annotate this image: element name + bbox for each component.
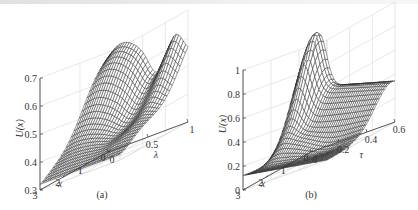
surface-plot-a-canvas: 0.30.40.50.60.7012300.51U(x)xλ(a) — [0, 0, 209, 210]
y-tick-label: 0.4 — [365, 134, 378, 145]
z-tick-label: 0.2 — [228, 161, 241, 172]
z-tick-label: 0.7 — [25, 73, 38, 84]
y-tick-label: 0.6 — [393, 124, 406, 135]
x-axis-label: x — [260, 178, 266, 189]
z-axis-label: U(x) — [217, 114, 229, 133]
x-axis-label: x — [57, 178, 63, 189]
z-tick-label: 0.4 — [228, 137, 241, 148]
surface-plot-b-canvas: 00.20.40.60.81012300.20.40.6U(x)xτ(b) — [209, 0, 418, 210]
z-axis-label: U(x) — [14, 119, 26, 138]
panel-caption: (b) — [305, 189, 317, 201]
y-axis-label: τ — [359, 149, 363, 160]
panel-caption: (a) — [96, 189, 107, 201]
z-tick-label: 0.6 — [25, 101, 38, 112]
z-tick-label: 1 — [235, 65, 240, 76]
z-tick-label: 0.6 — [228, 113, 241, 124]
surface-plot-a: 0.30.40.50.60.7012300.51U(x)xλ(a) — [0, 0, 209, 210]
x-tick-label: 3 — [236, 190, 241, 201]
surface-plot-b: 00.20.40.60.81012300.20.40.6U(x)xτ(b) — [209, 0, 418, 210]
x-tick-label: 1 — [281, 165, 286, 176]
x-tick-label: 1 — [78, 165, 83, 176]
y-tick-label: 1 — [190, 124, 195, 135]
z-tick-label: 0.4 — [25, 157, 38, 168]
z-tick-label: 0.5 — [25, 129, 38, 140]
z-tick-label: 0.8 — [228, 89, 241, 100]
x-tick-label: 0 — [101, 152, 106, 163]
y-tick-label: 0.2 — [337, 144, 350, 155]
y-tick-label: 0 — [110, 154, 115, 165]
x-tick-label: 0 — [304, 152, 309, 163]
x-tick-label: 3 — [33, 190, 38, 201]
y-tick-label: 0 — [313, 154, 318, 165]
y-axis-label: λ — [153, 149, 159, 160]
